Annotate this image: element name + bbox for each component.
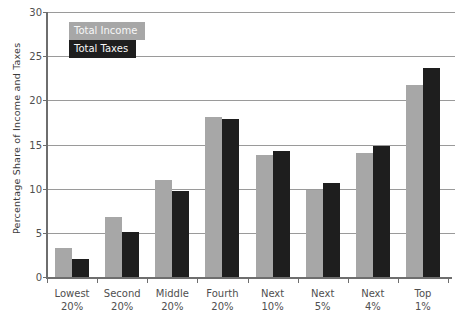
bar-total-taxes-3: [172, 191, 189, 278]
gridline-15: [47, 145, 455, 146]
x-tick-7: [398, 279, 399, 283]
bar-total-income-8: [406, 85, 423, 278]
gridline-30: [47, 12, 455, 13]
x-tick-5: [298, 279, 299, 283]
bar-total-taxes-7: [373, 146, 390, 279]
x-category-label-5: Next10%: [246, 287, 300, 313]
bar-total-taxes-6: [323, 183, 340, 278]
bar-total-taxes-2: [122, 232, 139, 278]
x-tick-2: [147, 279, 148, 283]
legend-item-total-income: Total Income: [69, 22, 145, 40]
bar-total-income-5: [256, 155, 273, 278]
bar-total-taxes-4: [222, 119, 239, 278]
x-tick-4: [248, 279, 249, 283]
legend-item-total-taxes: Total Taxes: [69, 40, 136, 58]
x-tick-end: [448, 279, 449, 283]
x-category-label-2: Second20%: [95, 287, 149, 313]
bar-total-taxes-1: [72, 259, 89, 278]
y-tick-label-25: 25: [16, 52, 42, 62]
x-category-label-7: Next4%: [346, 287, 400, 313]
x-tick-0: [47, 279, 48, 283]
gridline-10: [47, 189, 455, 190]
bar-total-income-7: [356, 153, 373, 278]
x-axis-line: [46, 277, 452, 279]
bar-total-income-3: [155, 180, 172, 278]
y-tick-label-20: 20: [16, 96, 42, 106]
bar-total-income-4: [205, 117, 222, 278]
bar-chart: Percentage Share of Income and Taxes Tot…: [0, 0, 459, 325]
bar-total-income-1: [55, 248, 72, 278]
x-tick-6: [348, 279, 349, 283]
bar-total-income-2: [105, 217, 122, 278]
y-tick-label-5: 5: [16, 229, 42, 239]
x-category-label-6: Next5%: [296, 287, 350, 313]
x-category-label-4: Fourth20%: [195, 287, 249, 313]
bar-total-taxes-8: [423, 68, 440, 278]
bar-total-income-6: [306, 190, 323, 278]
y-axis-line: [46, 12, 48, 279]
x-tick-1: [97, 279, 98, 283]
bar-total-taxes-5: [273, 151, 290, 278]
x-tick-3: [197, 279, 198, 283]
x-category-label-8: Top1%: [396, 287, 450, 313]
y-tick-label-0: 0: [16, 273, 42, 283]
x-category-label-3: Middle20%: [145, 287, 199, 313]
chart-legend: Total IncomeTotal Taxes: [69, 22, 145, 58]
y-tick-label-10: 10: [16, 185, 42, 195]
y-tick-label-15: 15: [16, 141, 42, 151]
y-tick-label-30: 30: [16, 8, 42, 18]
x-category-label-1: Lowest20%: [45, 287, 99, 313]
gridline-20: [47, 100, 455, 101]
